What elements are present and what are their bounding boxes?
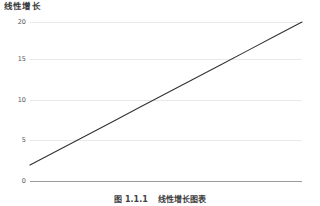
data-line-svg [30,22,302,181]
plot-area [30,22,302,181]
figure-container: 线性增长 20 15 10 5 0 图 1.1.1线性增长图表 [0,0,320,206]
y-tick-label-5: 5 [22,137,26,144]
x-axis-baseline [30,181,302,182]
chart-title: 线性增长 [4,1,41,12]
y-tick-label-0: 0 [22,178,26,185]
figure-caption-number: 图 1.1.1 [114,195,148,204]
y-tick-label-20: 20 [18,19,26,26]
figure-caption-text: 线性增长图表 [158,195,206,204]
y-tick-label-10: 10 [18,97,26,104]
figure-caption: 图 1.1.1线性增长图表 [0,194,320,206]
caption-divider [30,189,302,190]
series-line-linear-growth [30,22,302,165]
y-axis-tick-labels: 20 15 10 5 0 [0,22,26,181]
y-tick-label-15: 15 [18,56,26,63]
